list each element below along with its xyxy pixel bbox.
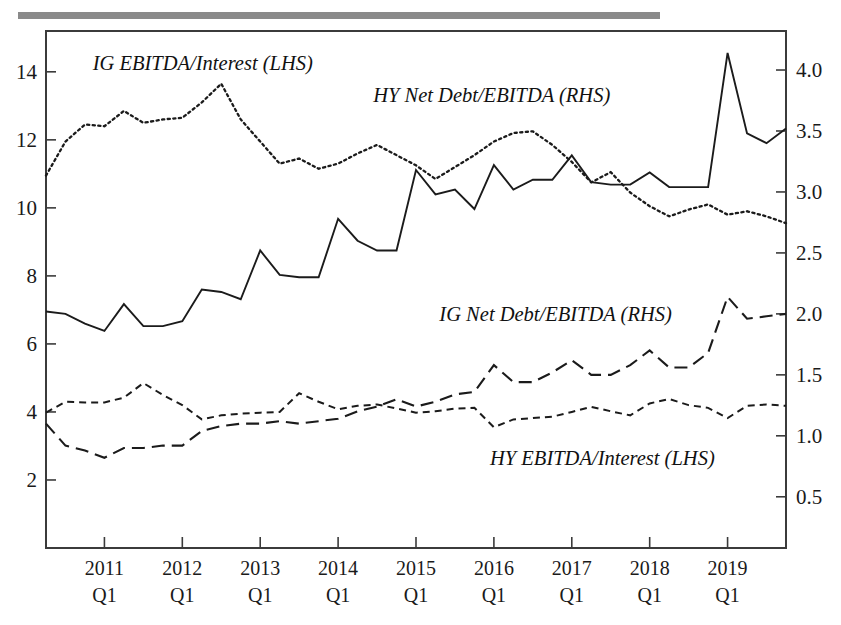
x-tick-label-year: 2015 bbox=[396, 557, 436, 579]
y-right-tick-label: 4.0 bbox=[796, 58, 822, 82]
x-tick-label-quarter: Q1 bbox=[482, 584, 506, 606]
series-lines bbox=[46, 53, 786, 458]
series-label: HY EBITDA/Interest (LHS) bbox=[489, 447, 715, 470]
y-left-tick-label: 6 bbox=[27, 332, 38, 356]
chart-canvas: 2468101214 0.51.01.52.02.53.03.54.0 2011… bbox=[0, 0, 841, 625]
y-axis-right: 0.51.01.52.02.53.03.54.0 bbox=[776, 58, 822, 509]
x-tick-label-year: 2018 bbox=[630, 557, 670, 579]
y-left-tick-label: 10 bbox=[16, 196, 37, 220]
y-right-tick-label: 2.0 bbox=[796, 302, 822, 326]
y-left-tick-label: 14 bbox=[16, 60, 38, 84]
y-right-tick-label: 3.5 bbox=[796, 119, 822, 143]
x-tick-label-quarter: Q1 bbox=[170, 584, 194, 606]
x-tick-label-quarter: Q1 bbox=[637, 584, 661, 606]
y-right-tick-label: 3.0 bbox=[796, 180, 822, 204]
y-right-tick-label: 2.5 bbox=[796, 241, 822, 265]
y-right-tick-label: 1.5 bbox=[796, 363, 822, 387]
plot-border bbox=[46, 31, 786, 548]
plot-frame bbox=[46, 31, 786, 548]
x-tick-label-quarter: Q1 bbox=[560, 584, 584, 606]
x-tick-label-quarter: Q1 bbox=[715, 584, 739, 606]
series-label: HY Net Debt/EBITDA (RHS) bbox=[372, 84, 610, 107]
x-tick-label-year: 2012 bbox=[162, 557, 202, 579]
figure-container: 2468101214 0.51.01.52.02.53.03.54.0 2011… bbox=[0, 0, 841, 625]
series-line-shortdash bbox=[46, 383, 786, 427]
y-left-tick-label: 8 bbox=[27, 264, 38, 288]
x-tick-label-year: 2019 bbox=[708, 557, 748, 579]
x-tick-label-year: 2016 bbox=[474, 557, 514, 579]
x-tick-label-quarter: Q1 bbox=[92, 584, 116, 606]
x-tick-label-year: 2014 bbox=[318, 557, 358, 579]
x-tick-label-year: 2013 bbox=[240, 557, 280, 579]
series-line-longdash bbox=[46, 297, 786, 458]
x-tick-label-quarter: Q1 bbox=[248, 584, 272, 606]
y-left-tick-label: 2 bbox=[27, 468, 38, 492]
y-right-tick-label: 1.0 bbox=[796, 424, 822, 448]
x-tick-label-year: 2017 bbox=[552, 557, 592, 579]
y-left-tick-label: 12 bbox=[16, 128, 37, 152]
y-left-tick-label: 4 bbox=[27, 400, 38, 424]
x-tick-label-quarter: Q1 bbox=[404, 584, 428, 606]
series-label: IG Net Debt/EBITDA (RHS) bbox=[438, 303, 672, 326]
series-label: IG EBITDA/Interest (LHS) bbox=[92, 52, 313, 75]
y-right-tick-label: 0.5 bbox=[796, 485, 822, 509]
x-tick-label-quarter: Q1 bbox=[326, 584, 350, 606]
x-tick-label-year: 2011 bbox=[85, 557, 124, 579]
